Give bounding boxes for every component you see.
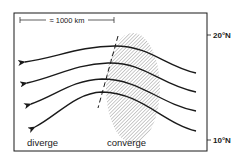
lat-label-10n: 10°N [213, 136, 231, 145]
scale-label: ≈ 1000 km [50, 16, 85, 25]
lat-label-20n: 20°N [213, 31, 231, 40]
diverge-label: diverge [27, 137, 58, 148]
convergence-zone-hatching [106, 33, 160, 143]
converge-label: converge [107, 137, 146, 148]
easterly-wave-diagram: ≈ 1000 km 20°N 10°N diverge converge [0, 0, 251, 160]
